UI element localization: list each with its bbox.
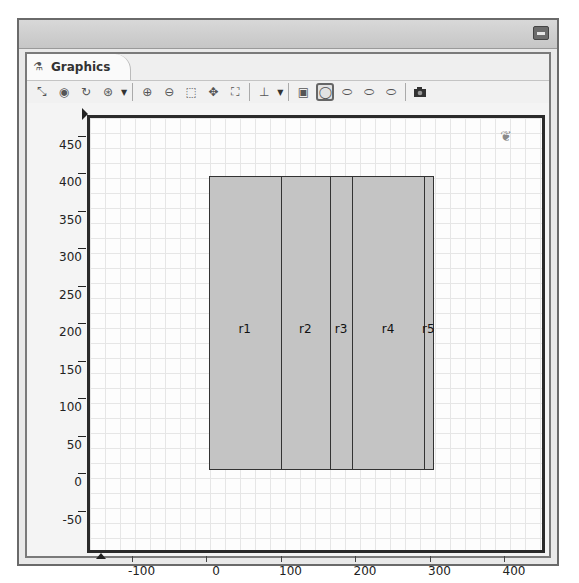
y-tick-mark <box>78 248 86 249</box>
select-icon[interactable]: ⤡ <box>33 83 51 101</box>
y-tick-mark <box>78 173 86 174</box>
rectangle-label: r2 <box>299 322 312 336</box>
x-tick-mark <box>206 556 207 562</box>
y-tick-label: 0 <box>42 475 82 489</box>
y-tick-mark <box>78 361 86 362</box>
rotate-icon[interactable]: ↻ <box>77 83 95 101</box>
zoom-out-icon[interactable]: ⊖ <box>160 83 178 101</box>
y-tick-label: 50 <box>42 438 82 452</box>
x-tick-label: 300 <box>420 564 460 578</box>
toolbar-separator <box>288 83 289 101</box>
axis-icon[interactable]: ⊥ <box>255 83 273 101</box>
select-boundary-icon[interactable]: ◯ <box>316 83 334 101</box>
y-tick-mark <box>78 436 86 437</box>
toolbar-separator <box>405 83 406 101</box>
rectangle-label: r3 <box>335 322 348 336</box>
y-tick-label: -50 <box>42 513 82 527</box>
y-tick-mark <box>78 323 86 324</box>
axis-origin-arrow-icon <box>96 553 106 559</box>
zoom-in-icon[interactable]: ⊕ <box>138 83 156 101</box>
axis-dropdown-icon[interactable]: ▼ <box>277 88 283 97</box>
tab-strip: ⚗ Graphics <box>27 54 549 81</box>
x-tick-mark <box>132 556 133 562</box>
select-all-icon[interactable]: ⬭ <box>382 83 400 101</box>
y-tick-mark <box>78 511 86 512</box>
zoom-box-icon[interactable]: ⬚ <box>182 83 200 101</box>
graphics-toolbar: ⤡ ◉ ↻ ⊛ ▼ ⊕ ⊖ ⬚ ✥ ⛶ ⊥ ▼ ▣ ◯ ⬭ ⬭ ⬭ <box>27 81 549 103</box>
y-tick-label: 150 <box>42 363 82 377</box>
x-tick-label: 200 <box>345 564 385 578</box>
y-tick-label: 100 <box>42 400 82 414</box>
y-tick-mark <box>78 136 86 137</box>
y-tick-label: 450 <box>42 138 82 152</box>
rectangle-label: r5 <box>422 322 435 336</box>
x-tick-label: 100 <box>271 564 311 578</box>
axis-origin-arrow-icon <box>82 108 88 120</box>
toolbar-separator <box>249 83 250 101</box>
y-tick-mark <box>78 398 86 399</box>
x-tick-mark <box>355 556 356 562</box>
rectangle-label: r1 <box>238 322 251 336</box>
comsol-logo-icon: ❦ <box>500 128 512 144</box>
tab-graphics[interactable]: ⚗ Graphics <box>27 54 131 80</box>
y-tick-label: 300 <box>42 250 82 264</box>
pan-icon[interactable]: ✥ <box>204 83 222 101</box>
y-tick-mark <box>78 211 86 212</box>
camera-icon <box>413 86 427 98</box>
screenshot-icon[interactable] <box>411 83 429 101</box>
select-domain-icon[interactable]: ▣ <box>294 83 312 101</box>
select-point-icon[interactable]: ⬭ <box>360 83 378 101</box>
y-tick-label: 350 <box>42 213 82 227</box>
y-tick-label: 200 <box>42 325 82 339</box>
select-edge-icon[interactable]: ⬭ <box>338 83 356 101</box>
y-tick-label: 250 <box>42 288 82 302</box>
y-tick-mark <box>78 286 86 287</box>
x-tick-mark <box>430 556 431 562</box>
x-tick-label: 400 <box>494 564 534 578</box>
x-tick-mark <box>281 556 282 562</box>
x-tick-mark <box>504 556 505 562</box>
y-tick-mark <box>78 473 86 474</box>
y-tick-label: 400 <box>42 175 82 189</box>
tab-label: Graphics <box>51 60 110 74</box>
view-settings-icon[interactable]: ⊛ <box>99 83 117 101</box>
restore-window-button[interactable] <box>533 26 549 40</box>
x-tick-label: -100 <box>122 564 162 578</box>
zoom-extents-icon[interactable]: ⛶ <box>226 83 244 101</box>
graphics-tab-icon: ⚗ <box>33 60 47 74</box>
title-bar <box>19 20 557 49</box>
x-tick-label: 0 <box>196 564 236 578</box>
toolbar-separator <box>132 83 133 101</box>
eye-icon[interactable]: ◉ <box>55 83 73 101</box>
view-settings-dropdown-icon[interactable]: ▼ <box>121 88 127 97</box>
rectangle-label: r4 <box>382 322 395 336</box>
